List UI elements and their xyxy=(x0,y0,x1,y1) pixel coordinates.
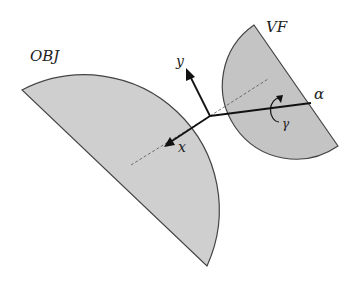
y-axis-arrow xyxy=(190,76,210,116)
gamma-label: γ xyxy=(282,117,290,131)
obj-region xyxy=(22,75,219,266)
obj-label: OBJ xyxy=(30,47,60,65)
y-axis-label: y xyxy=(175,53,185,69)
y-arrowhead-icon xyxy=(186,68,195,81)
alpha-label: α xyxy=(314,85,324,103)
vf-label: VF xyxy=(266,18,288,36)
x-axis-label: x xyxy=(178,139,186,155)
diagram-canvas: OBJ VF y x α γ xyxy=(0,0,355,285)
